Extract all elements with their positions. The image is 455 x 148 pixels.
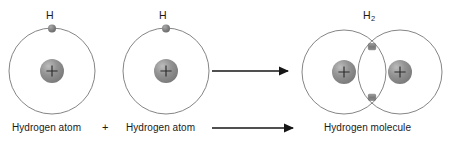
right-atom-symbol-label: H <box>159 10 167 21</box>
shared-electron-top <box>368 44 375 50</box>
left-atom-caption: Hydrogen atom <box>12 123 81 133</box>
left-hydrogen-atom <box>9 25 95 115</box>
molecule-symbol-subscript: 2 <box>371 14 375 23</box>
diagram-canvas: H H H2 Hydrogen atom + Hydrogen atom Hyd… <box>0 0 455 148</box>
reaction-arrows <box>212 71 293 128</box>
shared-electron-bottom <box>368 94 375 100</box>
reaction-plus-operator: + <box>102 122 108 133</box>
right-hydrogen-atom <box>123 25 209 115</box>
left-atom-symbol-label: H <box>46 10 54 21</box>
molecule-symbol-label: H2 <box>363 10 375 21</box>
right-atom-caption: Hydrogen atom <box>126 123 195 133</box>
hydrogen-molecule <box>302 30 442 114</box>
electron-right-atom <box>162 25 170 33</box>
electron-left-atom <box>48 25 56 33</box>
molecule-symbol-element: H <box>363 9 371 21</box>
molecule-caption: Hydrogen molecule <box>324 123 411 133</box>
